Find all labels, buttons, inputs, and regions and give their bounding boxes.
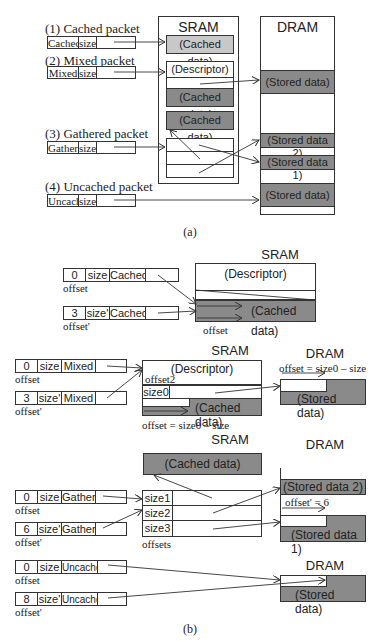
row-offset: 3 <box>16 392 38 404</box>
sram-size3-row: size3 <box>142 520 262 537</box>
row-size: size' <box>38 523 62 535</box>
sram-gather-row-2 <box>166 151 234 165</box>
row-offset-label: offset' <box>15 606 42 618</box>
sram-cached-data-b-mixed: (Cached data) <box>142 398 262 416</box>
row-type: Gather <box>62 523 96 535</box>
sram-descriptor-b-cached: (Descriptor) <box>195 263 316 291</box>
dram-stored-data-1-b: (Stored data 1) <box>280 515 366 542</box>
row-gather-1: 6 size' Gather <box>15 522 127 536</box>
sram-cached-data-1: (Cached data) <box>166 35 234 54</box>
row-offset: 0 <box>16 491 38 503</box>
sram-cached-data-b-gather: (Cached data) <box>143 453 262 475</box>
dram-stored-data-uncached: (Stored data) <box>260 183 335 207</box>
formula-sram-mixed: offset = size0 – size <box>142 419 229 431</box>
dram-stored-data-2: (Stored data 2) <box>260 133 335 148</box>
packet-type: Mixed <box>48 67 79 78</box>
row-type: Uncached <box>62 593 98 605</box>
sram-descriptor-a: (Descriptor) <box>166 61 234 78</box>
row-offset-label: offset <box>15 504 40 516</box>
row-gather-0: 0 size Gather <box>15 490 127 504</box>
row-offset-label: offset <box>63 282 88 294</box>
row-type: Mixed <box>62 392 96 404</box>
row-offset-label: offset' <box>15 536 42 548</box>
row-offset-label: offset <box>15 574 40 586</box>
row-offset: 0 <box>16 561 38 573</box>
sram-label-b-cached: SRAM <box>250 247 310 262</box>
dram-stored-data-b-uncached: (Stored data) <box>280 575 366 602</box>
packet-title-uncached: (4) Uncached packet <box>45 179 153 195</box>
dram-label-b-uncached: DRAM <box>300 558 350 573</box>
sram-cached-data-3: (Cached data) <box>166 111 234 130</box>
packet-uncached: Uncach size <box>47 194 136 207</box>
row-type: Gather <box>62 491 96 503</box>
row-size: size <box>86 269 110 281</box>
offset-label-sram-cached: offset <box>203 324 228 336</box>
formula-dram-mixed: offset = size0 – size <box>279 362 366 374</box>
row-size: size' <box>86 307 110 319</box>
packet-type: Uncach <box>48 195 79 206</box>
dram-offset-gather: offset' = 6 <box>285 496 329 508</box>
sram-label-b-mixed: SRAM <box>200 343 260 358</box>
row-offset: 0 <box>16 360 38 372</box>
packet-size: size <box>79 142 97 153</box>
row-uncached-0: 0 size Uncached <box>15 560 127 574</box>
packet-size: size <box>79 195 97 206</box>
row-offset: 6 <box>16 523 38 535</box>
row-uncached-1: 8 size' Uncached <box>15 592 127 606</box>
packet-type: Cached <box>48 37 79 48</box>
packet-cached: Cached size <box>47 36 136 49</box>
sram-gather-row-3 <box>166 164 234 178</box>
row-offset: 3 <box>64 307 86 319</box>
packet-size: size <box>79 67 97 78</box>
sram-cached-data-b: (Cached data) <box>195 300 316 322</box>
row-offset: 8 <box>16 593 38 605</box>
row-offset-label: offset' <box>15 405 42 417</box>
dram-stored-data-b-mixed: (Stored data) <box>280 379 366 405</box>
dram-stored-data-1: (Stored data) <box>260 70 335 94</box>
row-mixed-1: 3 size' Mixed <box>15 391 127 405</box>
row-cached-1: 3 size' Cached <box>63 306 179 320</box>
row-offset: 0 <box>64 269 86 281</box>
row-type: Cached <box>110 307 146 319</box>
sram-gather-row-1 <box>166 138 234 152</box>
dram-stored-data-1-gather: (Stored data 1) <box>260 155 335 170</box>
sram-blank-b-cached <box>195 290 316 300</box>
row-size: size' <box>38 392 62 404</box>
packet-size: size <box>79 37 97 48</box>
dram-label-b-gather: DRAM <box>300 437 350 452</box>
sram-size0-row: size0 <box>142 385 262 399</box>
packet-gather: Gather size <box>47 141 136 154</box>
caption-b: (b) <box>170 622 210 637</box>
offset2-label: offset2 <box>145 373 175 385</box>
row-type: Mixed <box>62 360 96 372</box>
row-mixed-0: 0 size Mixed <box>15 359 127 373</box>
sram-cached-data-2: (Cached data) <box>166 88 234 107</box>
row-type: Cached <box>110 269 146 281</box>
sram-size1-row: size1 <box>142 490 262 506</box>
dram-stored-data-2-b: (Stored data 2) <box>280 479 366 495</box>
dram-label-b-mixed: DRAM <box>300 346 350 361</box>
size0-cell: size0 <box>143 386 170 398</box>
packet-type: Gather <box>48 142 79 153</box>
row-size: size <box>38 360 62 372</box>
row-offset-label: offset' <box>63 320 90 332</box>
caption-a: (a) <box>170 225 210 240</box>
row-cached-0: 0 size Cached <box>63 268 179 282</box>
dram-label-a: DRAM <box>260 19 335 35</box>
offsets-label: offsets <box>142 538 171 550</box>
row-offset-label: offset <box>15 373 40 385</box>
packet-title-cached: (1) Cached packet <box>45 21 140 37</box>
row-type: Uncached <box>62 561 98 573</box>
packet-mixed: Mixed size <box>47 66 136 79</box>
packet-title-gathered: (3) Gathered packet <box>45 126 148 142</box>
sram-label-a: SRAM <box>158 19 239 35</box>
sram-label-b-gather: SRAM <box>200 432 260 447</box>
sram-size2-row: size2 <box>142 505 262 521</box>
row-size: size <box>38 491 62 503</box>
row-size: size <box>38 561 62 573</box>
row-size: size' <box>38 593 62 605</box>
